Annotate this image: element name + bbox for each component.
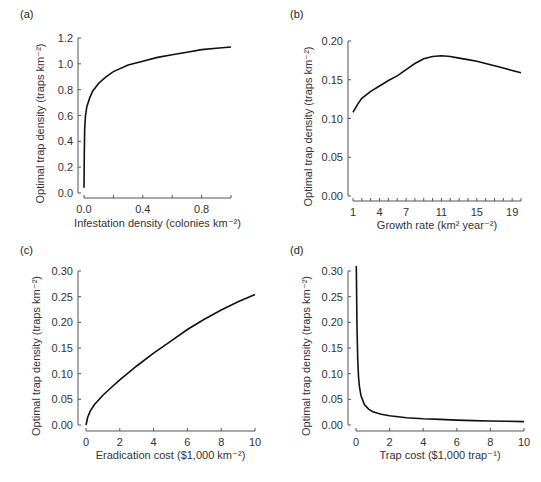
x-tick-label: 11 <box>436 206 447 218</box>
panel-d: (d)0.000.050.100.150.200.250.300246810Tr… <box>290 244 530 461</box>
y-tick-label: 0.20 <box>52 316 73 328</box>
y-tick-label: 0.30 <box>322 265 343 277</box>
x-tick-label: 8 <box>218 436 224 448</box>
data-line <box>86 295 255 425</box>
panel-c: (c)0.000.050.100.150.200.250.300246810Er… <box>20 244 261 461</box>
x-tick-label: 10 <box>249 436 261 448</box>
y-tick-label: 0.05 <box>322 393 343 405</box>
x-axis-label: Infestation density (colonies km⁻²) <box>74 217 241 229</box>
y-axis-label: Optimal trap density (traps km⁻²) <box>302 46 314 206</box>
y-tick-label: 0.15 <box>322 74 343 86</box>
x-tick-label: 0.4 <box>135 203 150 215</box>
y-axis-label: Optimal trap density (traps km⁻²) <box>34 43 46 203</box>
x-tick-label: 0 <box>353 436 359 448</box>
y-tick-label: 0.2 <box>58 161 73 173</box>
x-tick-label: 15 <box>471 206 483 218</box>
x-tick-label: 4 <box>151 436 157 448</box>
y-tick-label: 0.6 <box>58 110 73 122</box>
data-line <box>356 266 524 422</box>
y-tick-label: 0.20 <box>322 316 343 328</box>
x-tick-label: 4 <box>376 206 382 218</box>
y-axis-label: Optimal trap density (traps km⁻²) <box>30 276 42 436</box>
x-tick-label: 19 <box>506 206 518 218</box>
y-tick-label: 0.10 <box>322 368 343 380</box>
y-tick-label: 1.2 <box>58 32 73 44</box>
panel-label: (c) <box>20 244 33 256</box>
y-tick-label: 0.00 <box>52 419 73 431</box>
panel-a: (a)0.00.20.40.60.81.01.20.00.40.8Infesta… <box>20 8 241 229</box>
panel-label: (b) <box>290 8 303 20</box>
x-tick-label: 10 <box>518 436 530 448</box>
y-tick-label: 0.20 <box>322 35 343 47</box>
y-tick-label: 0.05 <box>322 151 343 163</box>
x-tick-label: 2 <box>387 436 393 448</box>
x-tick-label: 0 <box>83 436 89 448</box>
x-tick-label: 8 <box>487 436 493 448</box>
y-tick-label: 0.0 <box>58 187 73 199</box>
panel-label: (d) <box>290 244 303 256</box>
y-tick-label: 0.00 <box>322 419 343 431</box>
x-tick-label: 6 <box>184 436 190 448</box>
figure: (a)0.00.20.40.60.81.01.20.00.40.8Infesta… <box>0 0 541 482</box>
y-tick-label: 0.10 <box>322 113 343 125</box>
y-tick-label: 0.10 <box>52 368 73 380</box>
y-tick-label: 0.25 <box>52 291 73 303</box>
x-tick-label: 2 <box>117 436 123 448</box>
y-tick-label: 0.30 <box>52 265 73 277</box>
y-tick-label: 0.00 <box>322 190 343 202</box>
data-line <box>84 47 231 188</box>
y-tick-label: 0.8 <box>58 84 73 96</box>
x-axis-label: Trap cost ($1,000 trap⁻¹) <box>379 449 500 461</box>
x-axis-label: Growth rate (km² year⁻²) <box>377 219 497 231</box>
y-tick-label: 0.15 <box>322 342 343 354</box>
x-tick-label: 4 <box>420 436 426 448</box>
x-tick-label: 6 <box>454 436 460 448</box>
y-tick-label: 0.05 <box>52 393 73 405</box>
x-tick-label: 0.8 <box>194 203 209 215</box>
panel-b: (b)0.000.050.100.150.20147111519Growth r… <box>290 8 521 231</box>
y-tick-label: 1.0 <box>58 58 73 70</box>
x-axis-label: Eradication cost ($1,000 km⁻²) <box>96 449 246 461</box>
x-tick-label: 1 <box>350 206 356 218</box>
panel-label: (a) <box>20 8 33 20</box>
y-tick-label: 0.25 <box>322 291 343 303</box>
x-tick-label: 0.0 <box>76 203 91 215</box>
data-line <box>353 56 521 113</box>
x-tick-label: 7 <box>403 206 409 218</box>
y-tick-label: 0.15 <box>52 342 73 354</box>
y-axis-label: Optimal trap density (traps km⁻²) <box>300 276 312 436</box>
y-tick-label: 0.4 <box>58 135 73 147</box>
